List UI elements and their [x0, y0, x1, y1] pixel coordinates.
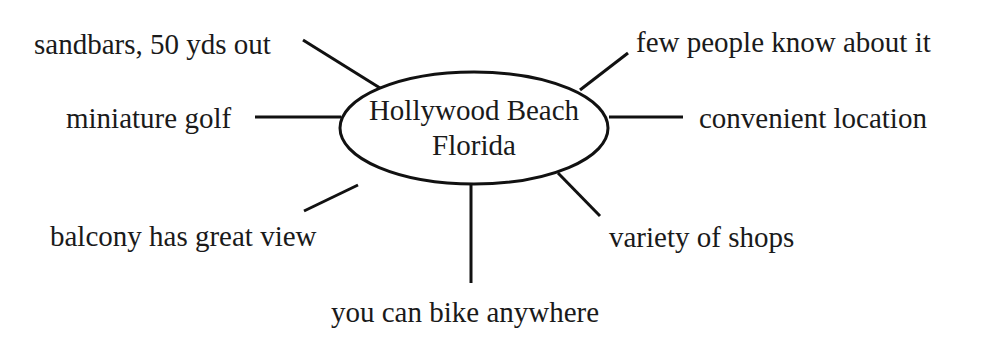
connector-few-people [580, 53, 628, 90]
node-shops: variety of shops [609, 223, 794, 252]
center-title-line2: Florida [340, 128, 608, 163]
center-node: Hollywood Beach Florida [340, 93, 608, 163]
node-bike: you can bike anywhere [331, 298, 599, 327]
node-few-people: few people know about it [636, 28, 931, 57]
connector-shops [558, 173, 600, 216]
cluster-diagram: Hollywood Beach Florida sandbars, 50 yds… [0, 0, 986, 359]
connector-balcony [304, 185, 358, 211]
connector-sandbars [303, 40, 380, 88]
center-title-line1: Hollywood Beach [340, 93, 608, 128]
node-balcony: balcony has great view [50, 222, 317, 251]
node-sandbars: sandbars, 50 yds out [34, 30, 271, 59]
node-convenient: convenient location [699, 104, 927, 133]
node-mini-golf: miniature golf [66, 104, 231, 133]
